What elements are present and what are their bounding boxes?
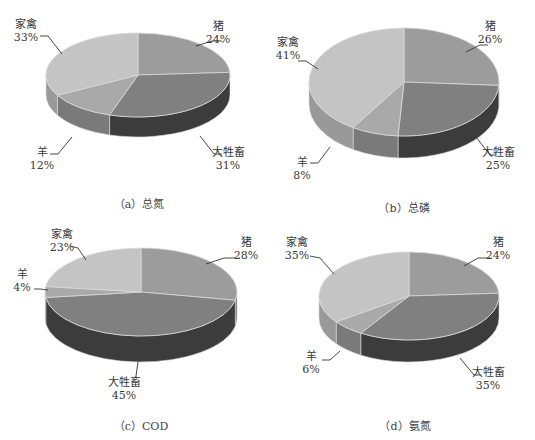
slice-category: 家禽 [279,236,315,249]
chart-figure [0,0,535,440]
slice-percent: 33% [8,31,44,44]
slice-percent: 25% [480,159,516,172]
slice-label: 羊12% [24,146,60,172]
slice-label: 羊4% [4,268,40,294]
slice-label: 家禽23% [44,228,80,254]
slice-percent: 4% [4,281,40,294]
slice-percent: 41% [270,49,306,62]
slice-category: 大牲畜 [210,146,246,159]
slice-category: 猪 [480,236,516,249]
pie-chart-b [298,28,499,163]
slice-category: 猪 [228,236,264,249]
slice-label: 猪24% [200,20,236,46]
slice-category: 家禽 [44,228,80,241]
slice-label: 家禽41% [270,36,306,62]
slice-label: 羊8% [284,156,320,182]
slice-percent: 12% [24,159,60,172]
pie-chart-d [310,252,499,375]
slice-category: 羊 [284,156,320,169]
slice-category: 羊 [4,268,40,281]
slice-percent: 24% [480,249,516,262]
slice-percent: 35% [470,379,506,392]
chart-caption: （d）氨氮 [379,417,430,433]
slice-label: 家禽33% [8,18,44,44]
slice-percent: 24% [200,33,236,46]
slice-percent: 31% [210,159,246,172]
slice-percent: 45% [106,389,142,402]
pie-chart-a [40,33,230,154]
slice-label: 羊6% [293,350,329,376]
slice-category: 家禽 [8,18,44,31]
slice-label: 猪28% [228,236,264,262]
slice-category: 大牲畜 [470,366,506,379]
chart-caption: （c）COD [114,417,168,433]
slice-label: 大牲畜35% [470,366,506,392]
chart-caption: （b）总磷 [378,199,429,215]
slice-category: 大牲畜 [106,376,142,389]
slice-category: 大牲畜 [480,146,516,159]
pie-slice-家禽 [46,248,141,292]
slice-label: 大牲畜25% [480,146,516,172]
slice-label: 大牲畜31% [210,146,246,172]
slice-label: 猪26% [472,20,508,46]
pie-charts-svg [0,0,535,440]
slice-percent: 8% [284,169,320,182]
slice-percent: 6% [293,363,329,376]
slice-label: 大牲畜45% [106,376,142,402]
slice-category: 羊 [293,350,329,363]
slice-label: 家禽35% [279,236,315,262]
slice-percent: 23% [44,241,80,254]
pie-slice-猪 [141,248,237,300]
slice-percent: 28% [228,249,264,262]
slice-percent: 35% [279,249,315,262]
slice-category: 猪 [200,20,236,33]
slice-label: 猪24% [480,236,516,262]
slice-percent: 26% [472,33,508,46]
pie-chart-c [34,246,237,378]
slice-category: 猪 [472,20,508,33]
slice-category: 家禽 [270,36,306,49]
slice-category: 羊 [24,146,60,159]
chart-caption: （a）总氮 [114,195,165,211]
